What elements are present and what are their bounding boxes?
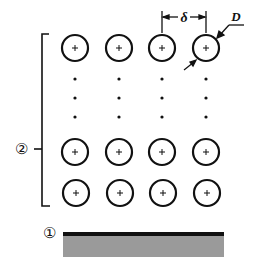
fiber-row-top xyxy=(62,35,219,61)
fiber-row-bottom xyxy=(63,180,220,206)
fiber-row-middle xyxy=(62,139,219,165)
fiber-array-diagram: ② δ D xyxy=(0,0,260,269)
ellipsis-dots xyxy=(73,77,207,118)
arrow-left-icon xyxy=(163,15,169,19)
spacing-symbol: δ xyxy=(180,10,187,25)
array-label: ② xyxy=(15,141,28,157)
diameter-symbol: D xyxy=(230,9,241,24)
arrow-right-icon xyxy=(199,15,205,19)
substrate xyxy=(63,232,224,257)
substrate-label: ① xyxy=(43,225,56,241)
array-bracket xyxy=(34,34,50,206)
